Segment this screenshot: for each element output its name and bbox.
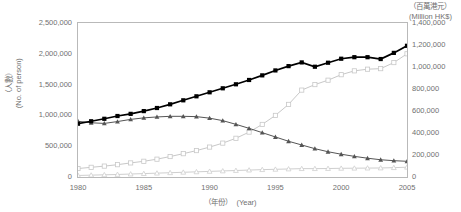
x-axis-tick-label: 2000 (321, 183, 361, 192)
left-axis-tick-label: 1,500,000 (6, 80, 72, 89)
right-axis-tick-label: 200,000 (412, 150, 439, 159)
x-axis-label-en: (Year) (236, 198, 256, 207)
right-axis-unit-zh: （百萬港元） (409, 2, 452, 12)
series-black-square (78, 44, 407, 126)
plot-area (77, 22, 408, 178)
x-axis-tick-label: 2005 (387, 183, 427, 192)
right-axis-tick-label: 1,200,000 (412, 40, 445, 49)
series-dark-triangle (78, 114, 407, 163)
x-axis-tick-label: 1990 (190, 183, 230, 192)
series-canvas (78, 23, 407, 177)
left-axis-tick-label: 2,500,000 (6, 18, 72, 27)
series-light-triangle (78, 165, 407, 177)
x-axis-label: （年份） (Year) (0, 196, 461, 207)
right-axis-tick-label: 400,000 (412, 128, 439, 137)
right-axis-tick-label: 0 (412, 172, 416, 181)
right-axis-tick-label: 1,000,000 (412, 62, 445, 71)
left-axis-tick-label: 1,000,000 (6, 110, 72, 119)
right-axis-tick-label: 1,400,000 (412, 18, 445, 27)
left-axis-tick-label: 500,000 (6, 141, 72, 150)
right-axis-tick-label: 600,000 (412, 106, 439, 115)
x-axis-tick-label: 1995 (255, 183, 295, 192)
left-axis-tick-label: 2,000,000 (6, 49, 72, 58)
x-axis-label-zh: （年份） (204, 198, 232, 207)
left-axis-tick-label: 0 (6, 172, 72, 181)
right-axis-tick-label: 800,000 (412, 84, 439, 93)
chart-container: （人數） (No. of person) （百萬港元） (Million HK$… (0, 0, 461, 212)
x-axis-tick-label: 1980 (58, 183, 98, 192)
x-axis-tick-label: 1985 (124, 183, 164, 192)
series-light-square (78, 52, 407, 171)
